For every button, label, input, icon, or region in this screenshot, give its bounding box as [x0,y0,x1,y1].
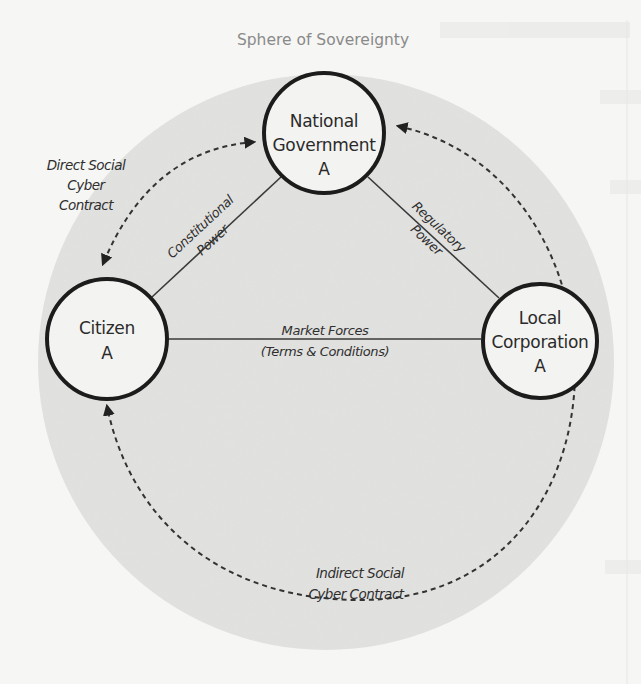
citizen-circle [47,279,167,399]
node-label: National [290,111,358,131]
contract-label: Contract [59,197,114,213]
diagram-title: Sphere of Sovereignty [237,31,409,49]
node-label: Local [519,308,562,328]
node-label: A [534,356,546,376]
node-label: Citizen [79,318,135,338]
node-local-corporation: Local Corporation A [483,284,597,398]
contract-label: Cyber Contract [308,586,404,602]
node-national-government: National Government A [264,73,384,193]
node-label: Government [272,135,376,155]
node-label: Corporation [491,332,588,352]
contract-label: Direct Social [47,157,126,173]
node-label: A [101,343,113,363]
edge-label: (Terms & Conditions) [261,344,389,359]
sphere-of-sovereignty-diagram: Sphere of Sovereignty National Governmen… [0,0,641,684]
node-label: A [318,159,330,179]
node-citizen: Citizen A [47,279,167,399]
edge-label: Market Forces [282,323,369,338]
contract-label: Indirect Social [316,565,405,581]
contract-label: Cyber [67,177,106,193]
diagram-page: Sphere of Sovereignty National Governmen… [0,0,641,684]
